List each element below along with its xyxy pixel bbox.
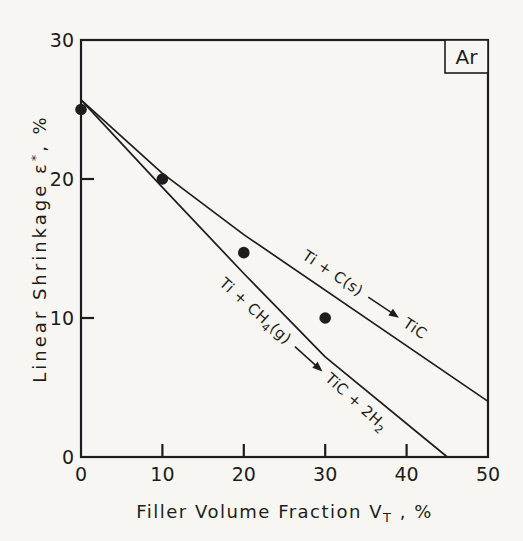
x-tick-label: 40 [395,463,419,485]
x-tick-label: 30 [313,463,337,485]
x-axis-title: Filler Volume Fraction VT , % [136,501,433,525]
data-point [238,247,250,259]
y-tick-label: 20 [50,168,74,190]
reaction-label-reaction-methane-gas: Ti + CH4(g)TiC + 2H2 [213,273,391,437]
y-tick-label: 10 [50,307,74,329]
x-tick-label: 20 [232,463,256,485]
x-tick-label: 50 [476,463,500,485]
shrinkage-chart: Ar010203040500102030Filler Volume Fracti… [0,0,523,541]
reaction-reactants: Ti + C(s) [298,246,366,300]
y-tick-label: 30 [50,29,74,51]
reaction-arrow [295,347,316,366]
reaction-arrow [368,297,391,313]
series-line-0 [81,100,488,402]
reaction-products: TiC [399,314,430,343]
series-line-1 [81,100,447,457]
shrinkage-figure: Ar010203040500102030Filler Volume Fracti… [0,0,523,541]
reaction-label-reaction-carbon-solid: Ti + C(s)TiC [298,246,430,343]
atmosphere-label: Ar [456,45,479,69]
data-point [157,173,169,185]
y-axis-title: Linear Shrinkage ε*, % [28,114,50,382]
x-tick-label: 0 [75,463,87,485]
data-point [75,104,87,116]
reaction-arrowhead-icon [388,309,401,321]
data-point [319,312,331,324]
y-tick-label: 0 [62,446,74,468]
plot-frame [81,40,488,457]
x-tick-label: 10 [150,463,174,485]
